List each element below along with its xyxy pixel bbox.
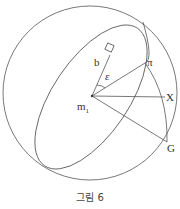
line-m1-X (92, 96, 165, 97)
label-G: G (167, 142, 175, 154)
label-X: X (166, 91, 174, 103)
figure-caption: 그림 6 (76, 192, 104, 203)
right-angle-marker (105, 43, 114, 52)
label-epsilon: ε (105, 70, 110, 82)
m1-point (91, 95, 93, 97)
line-m1-G (92, 96, 167, 142)
label-m1-subscript: 1 (86, 107, 90, 115)
line-m1-pi (92, 63, 145, 96)
label-b: b (94, 56, 100, 68)
label-pi: π (147, 56, 153, 68)
epsilon-angle-arc (97, 85, 105, 88)
label-m1: m1 (77, 100, 90, 115)
sphere-diagram: b ε π m1 X G 그림 6 (0, 0, 180, 209)
